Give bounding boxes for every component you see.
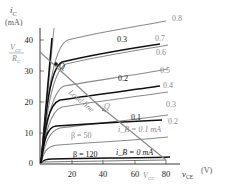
- vcc-over-rc-label: VCC RC: [9, 43, 24, 64]
- gray-curve-labels: 0.8 0.7 0.6 0.5 0.4 0.3 0.2: [155, 14, 182, 126]
- gray-curve-family: [41, 21, 168, 163]
- svg-text:0.3: 0.3: [166, 100, 176, 109]
- svg-text:Q: Q: [59, 62, 65, 71]
- y-tick-labels: 0 10 20 30 40: [25, 35, 34, 168]
- ib-0-label: i_B = 0 mA: [116, 148, 153, 157]
- y-axis-unit: (mA): [5, 18, 23, 27]
- svg-text:0.8: 0.8: [172, 14, 182, 23]
- svg-text:Q: Q: [104, 102, 110, 111]
- beta-50-label: β = 50: [71, 131, 92, 140]
- svg-text:0.5: 0.5: [160, 66, 170, 75]
- x-axis-title: vCE: [182, 169, 194, 180]
- q-point-lower: Q: [102, 102, 110, 111]
- svg-text:10: 10: [25, 128, 34, 138]
- svg-text:0: 0: [29, 158, 33, 168]
- svg-text:20: 20: [25, 97, 34, 107]
- svg-text:0.2: 0.2: [118, 74, 128, 83]
- svg-text:0.4: 0.4: [163, 81, 173, 90]
- svg-text:60: 60: [131, 169, 140, 179]
- svg-text:20: 20: [68, 169, 77, 179]
- load-line-label: Load line: [66, 87, 96, 114]
- svg-text:40: 40: [99, 169, 108, 179]
- svg-text:0.1: 0.1: [131, 113, 141, 122]
- x-axis-unit: (V): [201, 166, 212, 175]
- svg-text:30: 30: [25, 66, 34, 76]
- beta-120-label: β = 120: [73, 150, 98, 159]
- svg-text:80: 80: [162, 169, 171, 179]
- svg-text:0.3: 0.3: [117, 35, 127, 44]
- svg-text:0.7: 0.7: [155, 34, 165, 43]
- svg-text:0.2: 0.2: [168, 117, 178, 126]
- svg-text:40: 40: [25, 35, 34, 45]
- x-tick-labels: 20 40 60 80: [68, 169, 171, 179]
- ib-zero-gray-curve: [42, 160, 166, 162]
- svg-text:VCC: VCC: [10, 43, 22, 53]
- bjt-output-characteristics-chart: iC (mA) VCC RC 0 10 20 30 40 20 40 60 80: [0, 0, 228, 190]
- vcc-label: VCC: [143, 171, 155, 181]
- ib-0.1-label: i_B = 0.1 mA: [118, 125, 161, 134]
- y-axis-title: iC: [10, 5, 18, 17]
- svg-text:RC: RC: [11, 54, 21, 64]
- svg-text:0.6: 0.6: [156, 48, 166, 57]
